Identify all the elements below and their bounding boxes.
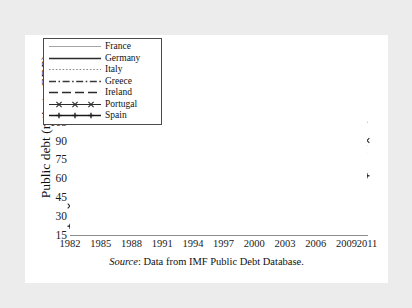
- figure-caption: Source: Data from IMF Public Debt Databa…: [25, 256, 388, 267]
- legend-label: Ireland: [105, 87, 132, 98]
- legend-item-ireland[interactable]: Ireland: [47, 87, 159, 99]
- legend-label: France: [105, 41, 131, 52]
- legend-label: Spain: [105, 110, 127, 121]
- x-tick-label: 2011: [347, 238, 387, 249]
- legend-item-italy[interactable]: Italy: [47, 64, 159, 76]
- legend-item-germany[interactable]: Germany: [47, 53, 159, 65]
- figure-card: Public debt (ratio to GDP) 1651501351201…: [25, 35, 388, 283]
- line-dash-dot-icon: [47, 76, 103, 87]
- y-tick-label: 45: [27, 192, 67, 202]
- line-solid-dark-icon: [47, 53, 103, 64]
- legend-item-spain[interactable]: Spain: [47, 110, 159, 122]
- caption-text: : Data from IMF Public Debt Database.: [138, 256, 304, 267]
- y-tick-label: 30: [27, 211, 67, 221]
- y-tick-label: 75: [27, 154, 67, 164]
- legend-item-greece[interactable]: Greece: [47, 76, 159, 88]
- legend-item-portugal[interactable]: Portugal: [47, 99, 159, 111]
- caption-source-label: Source: [109, 256, 138, 267]
- line-solid-thin-gray-icon: [47, 41, 103, 52]
- legend-label: Greece: [105, 76, 132, 87]
- chart-legend: FranceGermanyItalyGreeceIrelandPortugalS…: [43, 38, 162, 125]
- line-long-dash-icon: [47, 87, 103, 98]
- line-dotted-icon: [47, 64, 103, 75]
- line-marker-x-icon: [47, 99, 103, 110]
- legend-label: Portugal: [105, 99, 137, 110]
- x-axis-ticks: 1982198519881991199419972000200320062009…: [25, 238, 388, 254]
- y-tick-label: 60: [27, 173, 67, 183]
- legend-label: Italy: [105, 64, 122, 75]
- chart-area: Public debt (ratio to GDP) 1651501351201…: [25, 35, 388, 250]
- legend-item-france[interactable]: France: [47, 41, 159, 53]
- line-marker-plus-icon: [47, 110, 103, 121]
- x-axis-line: [70, 235, 368, 236]
- y-tick-label: 90: [27, 136, 67, 146]
- legend-label: Germany: [105, 53, 140, 64]
